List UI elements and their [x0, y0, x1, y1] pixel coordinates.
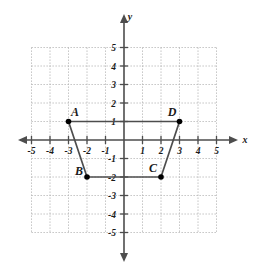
axes [20, 16, 236, 260]
y-axis-label: y [127, 11, 133, 22]
y-tick-label: 5 [111, 43, 116, 53]
point-c-label: C [149, 161, 158, 175]
point-c-marker [158, 174, 164, 180]
x-tick-label: 5 [214, 146, 219, 156]
y-tick-label: -4 [108, 210, 116, 220]
x-tick-label: -2 [83, 146, 91, 156]
point-b-label: B [74, 164, 83, 178]
y-axis-arrow-down [120, 253, 128, 262]
x-tick-label: -5 [28, 146, 36, 156]
x-axis-arrow-right [229, 136, 238, 144]
coordinate-plane-svg: x y -5 -4 -3 -2 -1 1 2 3 4 5 [0, 0, 258, 270]
coordinate-plane-figure: x y -5 -4 -3 -2 -1 1 2 3 4 5 [0, 0, 258, 270]
axis-arrowheads [18, 14, 238, 262]
x-tick-label: 1 [140, 146, 145, 156]
point-b-marker [84, 174, 90, 180]
x-axis-arrow-left [18, 136, 27, 144]
x-tick-label: 2 [158, 146, 164, 156]
y-tick-label: 3 [110, 80, 116, 90]
point-d-marker [177, 119, 183, 125]
x-tick-label: 3 [176, 146, 182, 156]
y-tick-label: -3 [108, 191, 116, 201]
y-tick-label: -5 [108, 228, 116, 238]
y-tick-label: -1 [108, 154, 116, 164]
x-tick-label: -3 [65, 146, 73, 156]
x-tick-label: -4 [46, 146, 54, 156]
point-a-marker [66, 119, 72, 125]
y-tick-label: 4 [110, 62, 116, 72]
point-d-label: D [167, 105, 177, 119]
x-tick-label: 4 [195, 146, 201, 156]
point-a-label: A [70, 105, 79, 119]
x-axis-label: x [242, 134, 248, 145]
y-tick-label: 2 [110, 99, 116, 109]
